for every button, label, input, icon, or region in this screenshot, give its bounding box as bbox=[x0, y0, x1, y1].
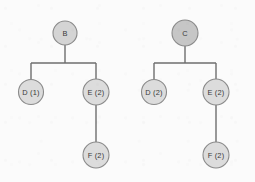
node-left-f-label: F (2) bbox=[88, 151, 105, 160]
node-right-e-label: E (2) bbox=[207, 88, 224, 97]
right-tree-group: C D (2) E (2) F (2) bbox=[142, 20, 230, 168]
node-right-d-label: D (2) bbox=[145, 88, 162, 97]
node-left-e[interactable]: E (2) bbox=[83, 79, 109, 105]
node-right-e[interactable]: E (2) bbox=[203, 79, 229, 105]
node-right-d[interactable]: D (2) bbox=[142, 80, 167, 105]
node-right-f-label: F (2) bbox=[208, 151, 225, 160]
node-right-f[interactable]: F (2) bbox=[203, 142, 229, 168]
node-right-c-label: C bbox=[182, 29, 188, 38]
node-left-d[interactable]: D (1) bbox=[19, 80, 44, 105]
node-left-f[interactable]: F (2) bbox=[83, 142, 109, 168]
node-left-b-label: B bbox=[62, 29, 67, 38]
node-left-d-label: D (1) bbox=[22, 88, 39, 97]
tree-diagram: B D (1) E (2) F (2) bbox=[0, 0, 255, 182]
node-left-e-label: E (2) bbox=[87, 88, 104, 97]
node-right-c[interactable]: C bbox=[172, 20, 198, 46]
left-tree-group: B D (1) E (2) F (2) bbox=[19, 21, 110, 168]
node-left-b[interactable]: B bbox=[53, 21, 77, 45]
